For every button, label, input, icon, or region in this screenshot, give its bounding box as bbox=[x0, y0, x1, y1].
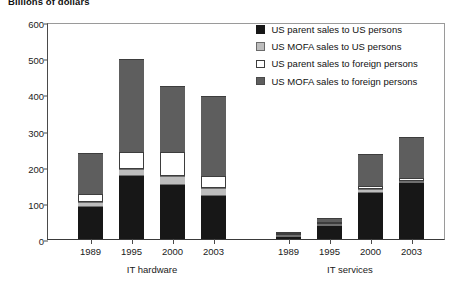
x-axis-tick-label: 1995 bbox=[121, 246, 142, 257]
bar-segment bbox=[201, 196, 226, 239]
bar-segment bbox=[119, 152, 144, 168]
legend-item[interactable]: US MOFA sales to foreign persons bbox=[256, 76, 418, 87]
y-axis-tick-label: 0 bbox=[39, 236, 44, 247]
x-axis-tick-label: 2000 bbox=[360, 246, 381, 257]
x-axis-tick-label: 1989 bbox=[80, 246, 101, 257]
x-axis-tick-mark bbox=[173, 239, 174, 244]
bar-2000-hardware[interactable] bbox=[160, 86, 185, 239]
bar-segment bbox=[317, 226, 342, 239]
white-swatch bbox=[256, 60, 265, 69]
x-axis-tick-mark bbox=[371, 239, 372, 244]
bar-segment bbox=[399, 183, 424, 239]
x-axis-tick-mark bbox=[330, 239, 331, 244]
y-axis-tick-label: 400 bbox=[28, 91, 44, 102]
x-axis-tick-mark bbox=[214, 239, 215, 244]
x-axis-group-label: IT hardware bbox=[127, 264, 178, 275]
bar-1989-services[interactable] bbox=[276, 232, 301, 239]
x-axis-tick-mark bbox=[132, 239, 133, 244]
bar-1989-hardware[interactable] bbox=[78, 153, 103, 239]
legend-item-label: US parent sales to US persons bbox=[272, 24, 402, 35]
y-axis-tick-mark bbox=[44, 241, 48, 242]
bar-segment bbox=[78, 153, 103, 194]
bar-segment bbox=[358, 154, 383, 186]
y-axis-tick-label: 500 bbox=[28, 55, 44, 66]
bar-segment bbox=[119, 169, 144, 176]
bar-segment bbox=[399, 137, 424, 178]
bar-segment bbox=[358, 193, 383, 239]
legend-item[interactable]: US parent sales to foreign persons bbox=[256, 58, 418, 69]
x-axis-tick-label: 1989 bbox=[278, 246, 299, 257]
x-axis-tick-label: 1995 bbox=[319, 246, 340, 257]
y-axis-tick-label: 300 bbox=[28, 127, 44, 138]
x-axis-tick-label: 2003 bbox=[401, 246, 422, 257]
chart-container: Billions of dollars 01002003004005006001… bbox=[0, 0, 460, 284]
x-axis-tick-mark bbox=[412, 239, 413, 244]
black-swatch bbox=[256, 25, 265, 34]
legend-item-label: US parent sales to foreign persons bbox=[272, 58, 418, 69]
bar-2000-services[interactable] bbox=[358, 154, 383, 239]
bar-segment bbox=[160, 86, 185, 152]
y-axis-tick-label: 100 bbox=[28, 199, 44, 210]
legend-item[interactable]: US parent sales to US persons bbox=[256, 24, 418, 35]
bar-segment bbox=[201, 188, 226, 195]
y-axis-tick-mark bbox=[44, 168, 48, 169]
bar-segment bbox=[119, 59, 144, 152]
bar-2003-hardware[interactable] bbox=[201, 96, 226, 239]
y-axis-tick-mark bbox=[44, 204, 48, 205]
y-axis-tick-mark bbox=[44, 60, 48, 61]
y-axis-tick-mark bbox=[44, 24, 48, 25]
light-gray-swatch bbox=[256, 42, 265, 51]
y-axis-title: Billions of dollars bbox=[8, 0, 90, 7]
bar-segment bbox=[160, 152, 185, 176]
bar-segment bbox=[78, 194, 103, 202]
y-axis-tick-label: 600 bbox=[28, 19, 44, 30]
x-axis-tick-label: 2003 bbox=[203, 246, 224, 257]
x-axis-group-label: IT services bbox=[327, 264, 373, 275]
dark-gray-swatch bbox=[256, 77, 265, 86]
bar-segment bbox=[160, 176, 185, 185]
chart-legend: US parent sales to US personsUS MOFA sal… bbox=[256, 24, 418, 87]
bar-segment bbox=[160, 185, 185, 239]
x-axis-tick-mark bbox=[91, 239, 92, 244]
legend-item-label: US MOFA sales to foreign persons bbox=[272, 76, 418, 87]
bar-segment bbox=[119, 176, 144, 239]
bar-1995-hardware[interactable] bbox=[119, 59, 144, 239]
y-axis-tick-mark bbox=[44, 96, 48, 97]
x-axis-tick-mark bbox=[289, 239, 290, 244]
bar-1995-services[interactable] bbox=[317, 218, 342, 239]
bar-segment bbox=[201, 96, 226, 176]
x-axis-tick-label: 2000 bbox=[162, 246, 183, 257]
bar-segment bbox=[201, 176, 226, 189]
legend-item-label: US MOFA sales to US persons bbox=[272, 41, 402, 52]
bar-2003-services[interactable] bbox=[399, 137, 424, 239]
y-axis-tick-label: 200 bbox=[28, 163, 44, 174]
bar-segment bbox=[78, 207, 103, 239]
y-axis-tick-mark bbox=[44, 132, 48, 133]
legend-item[interactable]: US MOFA sales to US persons bbox=[256, 41, 418, 52]
